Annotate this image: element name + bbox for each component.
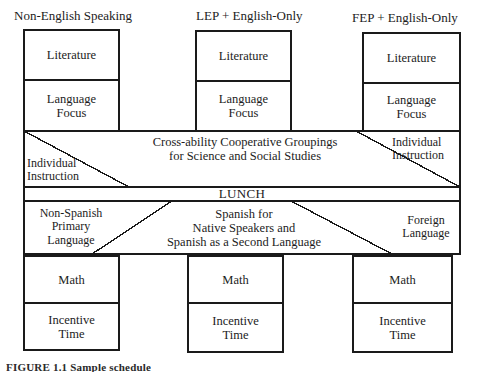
cell-lunch: LUNCH	[24, 187, 460, 201]
figure-caption: FIGURE 1.1 Sample schedule	[6, 361, 151, 372]
cell-incentive-time-col2: Incentive Time	[188, 303, 283, 352]
cell-language-focus-col1: Language Focus	[24, 80, 119, 131]
cell-literature-col3: Literature	[363, 33, 460, 83]
cell-math-col1: Math	[24, 256, 119, 303]
cell-math-col3: Math	[353, 256, 452, 303]
cell-literature-col1: Literature	[24, 30, 119, 80]
cell-foreign-language: Foreign Language	[392, 210, 460, 244]
cell-individual-instruction-left: Individual Instruction	[27, 156, 117, 184]
cell-incentive-time-col3: Incentive Time	[353, 303, 452, 352]
column-header-non-english-speaking: Non-English Speaking	[14, 8, 132, 23]
cell-spanish-program: Spanish for Native Speakers and Spanish …	[146, 206, 342, 250]
column-header-lep-english-only: LEP + English-Only	[196, 8, 303, 23]
cell-incentive-time-col1: Incentive Time	[24, 303, 119, 350]
cell-non-spanish-primary-language: Non-Spanish Primary Language	[26, 204, 116, 250]
schedule-figure: Non-English Speaking LEP + English-Only …	[0, 0, 478, 372]
cell-cooperative-groupings: Cross-ability Cooperative Groupings for …	[120, 134, 370, 164]
cell-language-focus-col2: Language Focus	[196, 81, 291, 131]
cell-language-focus-col3: Language Focus	[363, 83, 460, 131]
cell-literature-col2: Literature	[196, 31, 291, 81]
cell-math-col2: Math	[188, 256, 283, 303]
cell-individual-instruction-right: Individual Instruction	[392, 135, 462, 163]
column-header-fep-english-only: FEP + English-Only	[352, 10, 458, 25]
